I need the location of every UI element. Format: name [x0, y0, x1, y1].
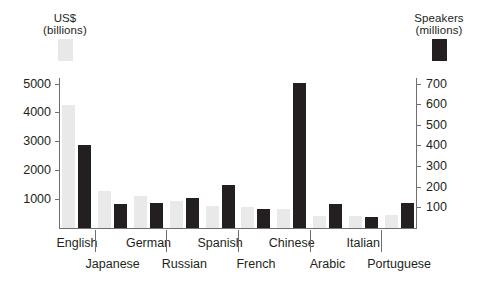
bar-speakers-french	[257, 209, 270, 228]
legend-right-line1: Speakers	[400, 12, 478, 24]
category-separator	[238, 230, 239, 252]
right-tick	[417, 84, 421, 85]
left-tick-label: 2000	[23, 164, 51, 176]
left-tick-label: 4000	[23, 106, 51, 118]
legend-left-swatch-icon	[58, 39, 73, 61]
category-separator	[95, 230, 96, 252]
bar-usd-french	[241, 207, 254, 228]
left-tick-label: 5000	[23, 78, 51, 90]
legend-right: Speakers (millions)	[400, 12, 478, 61]
right-tick	[417, 104, 421, 105]
bar-speakers-german	[150, 203, 163, 228]
bar-usd-portuguese	[385, 215, 398, 228]
category-separator	[166, 230, 167, 252]
legend-left-line1: US$	[24, 12, 106, 24]
bar-speakers-italian	[365, 217, 378, 228]
left-tick-label: 3000	[23, 135, 51, 147]
right-tick-label: 400	[426, 139, 447, 151]
plot-area: 10002000300040005000 1002003004005006007…	[59, 72, 417, 228]
right-tick-label: 500	[426, 119, 447, 131]
right-tick-label: 200	[426, 181, 447, 193]
legend-right-swatch-icon	[432, 39, 447, 61]
right-tick-label: 600	[426, 98, 447, 110]
right-tick	[417, 207, 421, 208]
category-label-italian: Italian	[318, 236, 408, 250]
right-tick	[417, 145, 421, 146]
right-tick-label: 700	[426, 78, 447, 90]
right-tick	[417, 166, 421, 167]
bar-usd-russian	[170, 201, 183, 228]
right-tick-label: 300	[426, 160, 447, 172]
left-tick	[55, 141, 59, 142]
category-label-portuguese: Portuguese	[354, 257, 444, 271]
right-tick-label: 100	[426, 201, 447, 213]
right-tick	[417, 187, 421, 188]
legend-right-line2: (millions)	[400, 24, 478, 36]
bar-speakers-portuguese	[401, 203, 414, 228]
bar-chart: US$ (billions) Speakers (millions) 10002…	[0, 0, 479, 292]
bar-usd-arabic	[313, 216, 326, 228]
bar-speakers-arabic	[329, 204, 342, 228]
category-separator	[310, 230, 311, 252]
category-separator	[381, 230, 382, 252]
left-tick	[55, 112, 59, 113]
bar-speakers-japanese	[114, 204, 127, 228]
bar-usd-german	[134, 196, 147, 228]
left-tick	[55, 84, 59, 85]
bar-usd-chinese	[277, 209, 290, 228]
left-axis-line	[59, 78, 60, 228]
bar-speakers-chinese	[293, 83, 306, 228]
bar-usd-spanish	[206, 206, 219, 228]
bar-speakers-spanish	[222, 185, 235, 228]
left-tick	[55, 170, 59, 171]
bar-usd-italian	[349, 216, 362, 228]
left-tick	[55, 199, 59, 200]
right-axis-line	[416, 78, 417, 228]
left-tick-label: 1000	[23, 193, 51, 205]
legend-left: US$ (billions)	[24, 12, 106, 61]
bottom-axis-line	[59, 228, 417, 229]
bar-usd-english	[62, 105, 75, 228]
bar-speakers-english	[78, 145, 91, 228]
bar-speakers-russian	[186, 198, 199, 228]
right-tick	[417, 125, 421, 126]
bar-usd-japanese	[98, 191, 111, 228]
legend-left-line2: (billions)	[24, 24, 106, 36]
